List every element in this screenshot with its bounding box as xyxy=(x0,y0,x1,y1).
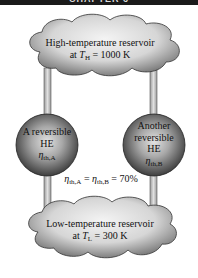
low-reservoir-temperature: at TL = 300 K xyxy=(28,230,172,246)
high-reservoir-title: High-temperature reservoir xyxy=(28,37,172,49)
engine-a-efficiency-symbol: ηth,A xyxy=(10,149,84,165)
low-reservoir-title: Low-temperature reservoir xyxy=(28,218,172,230)
engine-b-label: Another reversible HE ηth,B xyxy=(117,120,191,170)
efficiency-equation: ηth,A = ηth,B = 70% xyxy=(52,173,150,189)
left-upper-pipe xyxy=(44,68,51,120)
engine-a-label: A reversible HE ηth,A xyxy=(10,126,84,165)
right-upper-pipe xyxy=(150,68,157,120)
high-reservoir-temperature: at TH = 1000 K xyxy=(28,49,172,65)
engine-b-efficiency-symbol: ηth,B xyxy=(117,155,191,171)
high-reservoir-label: High-temperature reservoir at TH = 1000 … xyxy=(28,37,172,64)
low-reservoir-label: Low-temperature reservoir at TL = 300 K xyxy=(28,218,172,245)
